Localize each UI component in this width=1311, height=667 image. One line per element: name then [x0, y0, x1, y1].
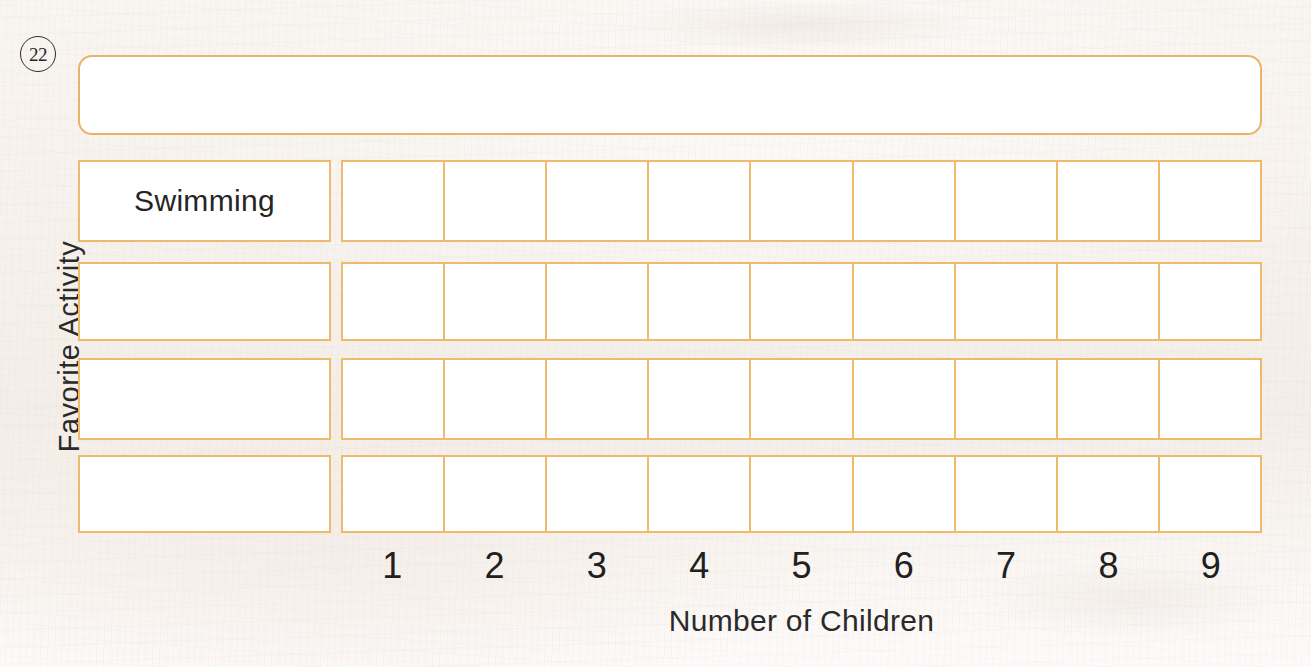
x-axis-tick-row: 1 2 3 4 5 6 7 8 9 [341, 545, 1262, 587]
x-axis-tick: 4 [648, 545, 750, 587]
grid-cell[interactable] [343, 360, 445, 438]
grid-cell[interactable] [1058, 264, 1160, 339]
grid-cell[interactable] [547, 457, 649, 531]
grid-cell[interactable] [751, 360, 853, 438]
grid-cell[interactable] [445, 264, 547, 339]
grid-cell[interactable] [343, 457, 445, 531]
graph-title-input-box[interactable] [78, 55, 1262, 135]
row-cells-3 [341, 358, 1262, 440]
grid-cell[interactable] [854, 162, 956, 240]
row-gap [331, 455, 341, 533]
grid-cell[interactable] [1160, 360, 1260, 438]
x-axis-label: Number of Children [341, 604, 1262, 638]
grid-cell[interactable] [956, 360, 1058, 438]
grid-cell[interactable] [343, 162, 445, 240]
x-axis-tick: 9 [1160, 545, 1262, 587]
grid-cell[interactable] [649, 264, 751, 339]
grid-cell[interactable] [547, 162, 649, 240]
grid-cell[interactable] [751, 162, 853, 240]
grid-cell[interactable] [649, 457, 751, 531]
x-axis-tick: 2 [443, 545, 545, 587]
grid-cell[interactable] [854, 264, 956, 339]
chart-row [78, 358, 1262, 440]
grid-cell[interactable] [1058, 162, 1160, 240]
row-label-box-1[interactable]: Swimming [78, 160, 331, 242]
scan-blotch-top [620, 0, 980, 52]
row-label-box-2[interactable] [78, 262, 331, 341]
grid-cell[interactable] [547, 360, 649, 438]
x-axis-tick: 7 [955, 545, 1057, 587]
grid-cell[interactable] [445, 162, 547, 240]
grid-cell[interactable] [854, 360, 956, 438]
x-axis-tick: 8 [1057, 545, 1159, 587]
problem-number-badge: 22 [20, 36, 56, 72]
grid-cell[interactable] [1160, 264, 1260, 339]
grid-cell[interactable] [956, 264, 1058, 339]
row-gap [331, 160, 341, 242]
grid-cell[interactable] [1160, 162, 1260, 240]
grid-cell[interactable] [1058, 360, 1160, 438]
grid-cell[interactable] [547, 264, 649, 339]
grid-cell[interactable] [649, 162, 751, 240]
grid-cell[interactable] [956, 457, 1058, 531]
grid-cell[interactable] [751, 457, 853, 531]
x-axis-tick: 6 [853, 545, 955, 587]
grid-cell[interactable] [956, 162, 1058, 240]
row-gap [331, 358, 341, 440]
chart-row [78, 455, 1262, 533]
grid-cell[interactable] [649, 360, 751, 438]
x-axis-tick: 1 [341, 545, 443, 587]
worksheet-page: 22 Favorite Activity Swimming [0, 0, 1311, 667]
row-cells-2 [341, 262, 1262, 341]
x-axis-tick: 3 [546, 545, 648, 587]
grid-cell[interactable] [343, 264, 445, 339]
grid-cell[interactable] [1160, 457, 1260, 531]
grid-cell[interactable] [445, 360, 547, 438]
grid-cell[interactable] [751, 264, 853, 339]
x-axis-tick: 5 [750, 545, 852, 587]
grid-cell[interactable] [1058, 457, 1160, 531]
row-gap [331, 262, 341, 341]
chart-row [78, 262, 1262, 341]
chart-row: Swimming [78, 160, 1262, 242]
grid-cell[interactable] [854, 457, 956, 531]
row-cells-1 [341, 160, 1262, 242]
row-label-box-3[interactable] [78, 358, 331, 440]
row-label-box-4[interactable] [78, 455, 331, 533]
grid-cell[interactable] [445, 457, 547, 531]
row-cells-4 [341, 455, 1262, 533]
